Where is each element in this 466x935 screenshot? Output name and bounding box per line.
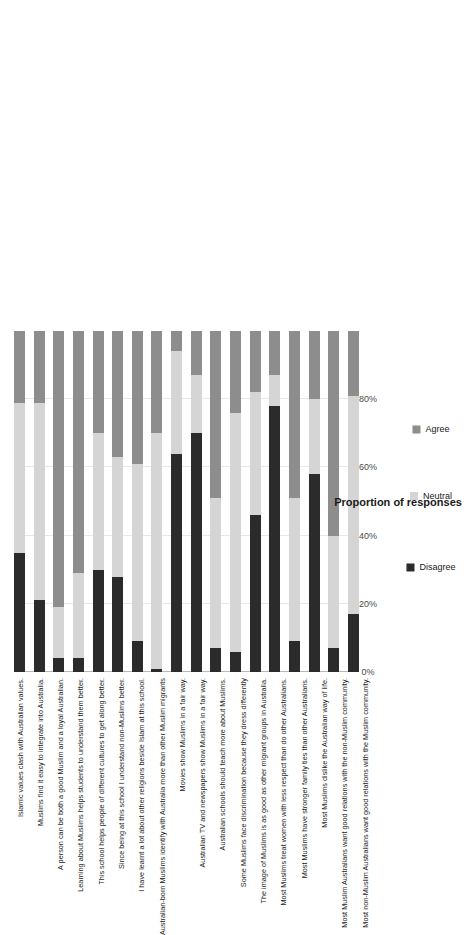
category-label: Australian schools should teach more abo… xyxy=(218,678,227,850)
bar-segment-disagree xyxy=(269,406,280,672)
bar-segment-agree xyxy=(73,331,84,573)
category-label: Some Muslims face discrimination because… xyxy=(238,678,247,887)
legend-item-agree: Agree xyxy=(412,425,449,435)
axis-tick-label: 60% xyxy=(358,462,378,472)
bar-segment-neutral xyxy=(171,351,182,453)
legend-item-disagree: Disagree xyxy=(406,562,455,572)
bar-row xyxy=(191,331,202,672)
category-label: Muslims find it easy to integrate into A… xyxy=(35,678,44,826)
bar-segment-disagree xyxy=(289,641,300,672)
category-label: The image of Muslims is as good as other… xyxy=(259,678,268,904)
category-label: Most Muslim Australians want good relati… xyxy=(340,678,349,928)
bar-segment-disagree xyxy=(14,553,25,672)
category-label: Movies show Muslims in a fair way. xyxy=(177,678,186,791)
bar-row xyxy=(112,331,123,672)
legend-item-neutral: Neutral xyxy=(410,491,452,501)
axis-tick-label: 20% xyxy=(358,599,378,609)
bar-segment-disagree xyxy=(328,648,339,672)
category-label: Most Muslims dislike the Australian way … xyxy=(319,678,328,828)
category-label: Islamic values clash with Australian val… xyxy=(15,678,24,817)
bar-segment-agree xyxy=(250,331,261,392)
bar-segment-neutral xyxy=(132,464,143,641)
bar-segment-agree xyxy=(348,331,359,396)
legend-swatch-neutral-icon xyxy=(410,492,418,500)
bar-segment-neutral xyxy=(328,536,339,649)
bar-segment-neutral xyxy=(112,457,123,576)
bar-segment-neutral xyxy=(34,403,45,601)
bar-segment-neutral xyxy=(230,413,241,652)
category-label: Most Muslims have stronger family ties t… xyxy=(299,678,308,878)
bar-segment-disagree xyxy=(230,652,241,672)
bar-segment-neutral xyxy=(210,498,221,648)
bar-segment-disagree xyxy=(250,515,261,672)
legend-label: Neutral xyxy=(423,491,452,501)
category-label: Most non-Muslim Australians want good re… xyxy=(360,678,369,928)
bar-segment-agree xyxy=(269,331,280,375)
bar-row xyxy=(151,331,162,672)
category-label: Australian-born Muslims identify with Au… xyxy=(157,678,166,935)
bar-segment-neutral xyxy=(53,607,64,658)
bar-segment-disagree xyxy=(132,641,143,672)
bar-segment-neutral xyxy=(269,375,280,406)
category-label: Most Muslims treat women with less respe… xyxy=(279,678,288,906)
category-label: This school helps people of different cu… xyxy=(96,678,105,885)
bar-segment-neutral xyxy=(73,573,84,658)
bar-segment-neutral xyxy=(14,403,25,553)
bar-segment-neutral xyxy=(93,433,104,569)
category-label: Learning about Muslims helps students to… xyxy=(76,678,85,892)
chart-legend: DisagreeNeutralAgree xyxy=(414,331,448,672)
bar-segment-neutral xyxy=(191,375,202,433)
bar-row xyxy=(210,331,221,672)
bar-segment-agree xyxy=(53,331,64,607)
bar-segment-disagree xyxy=(73,658,84,672)
bar-segment-agree xyxy=(309,331,320,399)
bar-segment-neutral xyxy=(289,498,300,641)
category-label: Australian TV and newspapers show Muslim… xyxy=(198,678,207,868)
bar-segment-disagree xyxy=(210,648,221,672)
bar-segment-agree xyxy=(14,331,25,403)
bar-row xyxy=(73,331,84,672)
axis-tick-label: 40% xyxy=(358,531,378,541)
bar-segment-agree xyxy=(132,331,143,464)
axis-tick-label: 0% xyxy=(358,667,378,677)
legend-label: Agree xyxy=(425,425,449,435)
bar-segment-disagree xyxy=(112,577,123,672)
legend-swatch-disagree-icon xyxy=(406,563,414,571)
bar-row xyxy=(53,331,64,672)
bar-row xyxy=(93,331,104,672)
bar-row xyxy=(171,331,182,672)
bar-row xyxy=(34,331,45,672)
bar-row xyxy=(14,331,25,672)
bar-segment-agree xyxy=(191,331,202,375)
bar-segment-agree xyxy=(171,331,182,351)
bar-segment-agree xyxy=(210,331,221,498)
bar-segment-agree xyxy=(112,331,123,457)
bar-segment-agree xyxy=(289,331,300,498)
category-label: I have learnt a lot about other religion… xyxy=(137,678,146,892)
bar-segment-disagree xyxy=(93,570,104,672)
bar-segment-agree xyxy=(93,331,104,433)
bar-segment-disagree xyxy=(53,658,64,672)
axis-tick-label: 80% xyxy=(358,394,378,404)
legend-swatch-agree-icon xyxy=(412,426,420,434)
bar-segment-agree xyxy=(230,331,241,413)
category-label: A person can be both a good Muslim and a… xyxy=(56,678,65,870)
bar-segment-disagree xyxy=(151,669,162,672)
bar-segment-disagree xyxy=(348,614,359,672)
bar-segment-disagree xyxy=(34,600,45,672)
bar-segment-disagree xyxy=(171,454,182,672)
category-label: Since being at this school I understand … xyxy=(116,678,125,869)
bar-segment-neutral xyxy=(309,399,320,474)
bar-row xyxy=(132,331,143,672)
bar-segment-agree xyxy=(151,331,162,433)
bar-segment-agree xyxy=(34,331,45,403)
bar-segment-neutral xyxy=(151,433,162,668)
bar-segment-disagree xyxy=(191,433,202,672)
legend-label: Disagree xyxy=(419,562,455,572)
